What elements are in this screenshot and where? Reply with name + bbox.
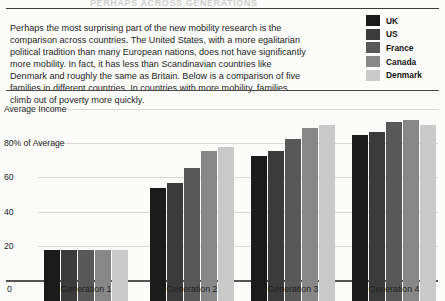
y-axis-label-40: 40 bbox=[4, 207, 14, 217]
title-underline-rule bbox=[6, 8, 439, 9]
bar-group-generation-4 bbox=[352, 113, 436, 301]
bar-group-generation-3 bbox=[251, 113, 335, 301]
bar-canada-gen3 bbox=[302, 128, 318, 301]
gridline-100 bbox=[38, 109, 438, 110]
legend-item-denmark: Denmark bbox=[366, 68, 442, 82]
x-axis-label-generation-2: Generation 2 bbox=[152, 284, 232, 294]
x-axis-label-generation-1: Generation 1 bbox=[46, 284, 126, 294]
bar-denmark-gen2 bbox=[218, 147, 234, 301]
bar-group-generation-1 bbox=[44, 113, 128, 301]
x-axis-label-generation-4: Generation 4 bbox=[354, 284, 434, 294]
legend-swatch-icon bbox=[366, 70, 380, 81]
y-axis-label-60: 60 bbox=[4, 172, 14, 182]
bar-uk-gen4 bbox=[352, 135, 368, 301]
legend-item-uk: UK bbox=[366, 14, 442, 28]
chart-legend: UKUSFranceCanadaDenmark bbox=[366, 14, 442, 82]
bar-uk-gen3 bbox=[251, 156, 267, 301]
legend-item-label: Canada bbox=[386, 57, 416, 67]
legend-item-label: UK bbox=[386, 16, 398, 26]
bar-france-gen4 bbox=[386, 122, 402, 301]
y-axis-zero-label: 0 bbox=[7, 284, 12, 294]
legend-swatch-icon bbox=[366, 42, 380, 53]
legend-swatch-icon bbox=[366, 56, 380, 67]
legend-swatch-icon bbox=[366, 29, 380, 40]
legend-item-label: France bbox=[386, 43, 413, 53]
legend-item-france: France bbox=[366, 41, 442, 55]
bar-canada-gen4 bbox=[403, 120, 419, 301]
bar-denmark-gen4 bbox=[420, 125, 436, 301]
bar-group-generation-2 bbox=[150, 113, 234, 301]
page-title-partial: PERHAPS ACROSS GENERATIONS bbox=[90, 0, 370, 7]
legend-item-us: US bbox=[366, 28, 442, 42]
legend-item-label: Denmark bbox=[386, 70, 422, 80]
x-axis-label-generation-3: Generation 3 bbox=[253, 284, 333, 294]
legend-item-canada: Canada bbox=[366, 55, 442, 69]
bar-france-gen2 bbox=[184, 168, 200, 301]
y-axis-label-20: 20 bbox=[4, 241, 14, 251]
section-divider-rule bbox=[6, 90, 439, 91]
legend-item-label: US bbox=[386, 29, 398, 39]
mobility-bar-chart: 0 20406080% of AverageAverage IncomeGene… bbox=[0, 92, 445, 301]
bar-us-gen4 bbox=[369, 132, 385, 301]
legend-swatch-icon bbox=[366, 15, 380, 26]
bar-canada-gen2 bbox=[201, 151, 217, 301]
bar-us-gen3 bbox=[268, 151, 284, 301]
bar-denmark-gen3 bbox=[319, 125, 335, 301]
bar-france-gen3 bbox=[285, 139, 301, 301]
